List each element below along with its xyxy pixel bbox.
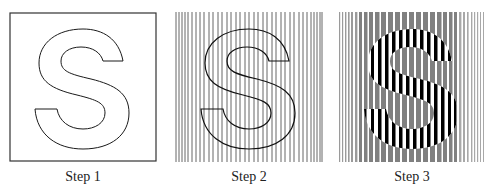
step-1-panel xyxy=(9,12,157,162)
step-2-caption: Step 2 xyxy=(175,169,323,185)
step-2-panel xyxy=(175,12,323,162)
step-1-caption: Step 1 xyxy=(9,169,157,185)
letter-s-stripe-illusion xyxy=(338,12,486,162)
letter-s-over-grating xyxy=(175,12,323,162)
step-3-panel xyxy=(338,12,486,162)
letter-s-outline-in-frame xyxy=(9,12,157,162)
step-3-caption: Step 3 xyxy=(338,169,486,185)
